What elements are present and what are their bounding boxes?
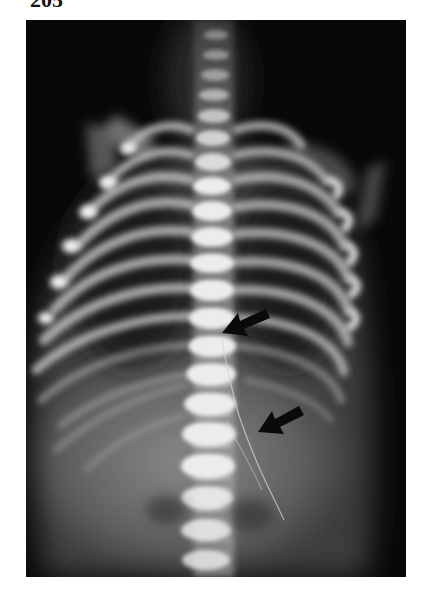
radiograph-svg <box>26 20 406 577</box>
radiograph-image <box>26 20 406 577</box>
figure-number: 205 <box>30 0 63 11</box>
